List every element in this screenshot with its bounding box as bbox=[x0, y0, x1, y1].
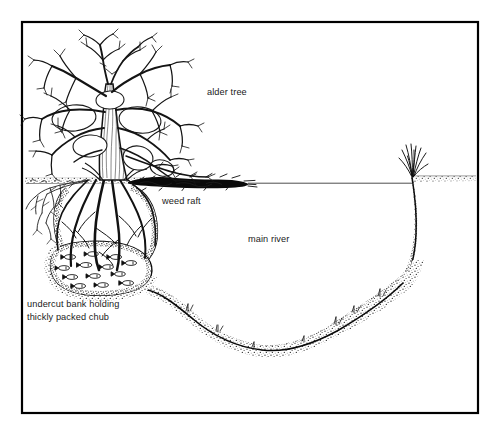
label-weed-raft: weed raft bbox=[161, 196, 201, 206]
label-undercut-bank-line2: thickly packed chub bbox=[27, 312, 109, 322]
label-undercut-bank-line1: undercut bank holding bbox=[27, 299, 120, 309]
label-main-river: main river bbox=[248, 234, 289, 244]
label-alder-tree: alder tree bbox=[207, 87, 247, 97]
river-cross-section-diagram: alder tree weed raft main river undercut… bbox=[0, 0, 498, 435]
scene-illustration: alder tree weed raft main river undercut… bbox=[0, 0, 498, 435]
